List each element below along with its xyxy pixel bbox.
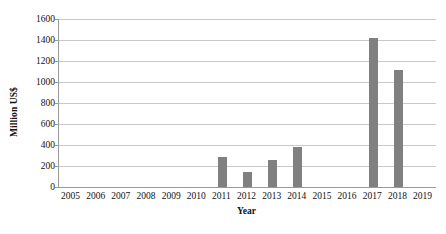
x-axis-tick-label: 2006 — [83, 190, 108, 204]
bar[interactable] — [293, 147, 302, 187]
x-axis-tick-labels: 2005200620072008200920102011201220132014… — [58, 190, 435, 204]
y-axis-tick-label: 200 — [22, 161, 55, 171]
y-axis-title: Million US$ — [6, 58, 22, 166]
bar-slot — [185, 19, 210, 187]
x-axis-tick-label: 2013 — [259, 190, 284, 204]
x-axis-tick-label: 2017 — [360, 190, 385, 204]
x-axis-tick-label: 2019 — [410, 190, 435, 204]
bar-slot — [411, 19, 436, 187]
y-axis-tick-label: 1200 — [22, 56, 55, 66]
bar-slot — [84, 19, 109, 187]
x-axis-title: Year — [58, 206, 435, 216]
bar-slot — [310, 19, 335, 187]
x-axis-tick-label: 2016 — [335, 190, 360, 204]
x-axis-tick-label: 2012 — [234, 190, 259, 204]
x-axis-tick-label: 2009 — [159, 190, 184, 204]
bar-series — [59, 19, 436, 187]
x-axis-tick-label: 2018 — [385, 190, 410, 204]
plot-area — [58, 19, 436, 188]
bar-slot — [210, 19, 235, 187]
y-axis-tick-label: 1400 — [22, 35, 55, 45]
bar[interactable] — [268, 160, 277, 187]
bar[interactable] — [218, 157, 227, 187]
y-axis-title-label: Million US$ — [9, 87, 19, 137]
x-axis-tick-label: 2014 — [284, 190, 309, 204]
y-axis-tick-mark — [55, 187, 59, 188]
bar[interactable] — [243, 172, 252, 187]
gridline — [59, 187, 436, 188]
bar-slot — [235, 19, 260, 187]
y-axis-tick-label: 1600 — [22, 14, 55, 24]
bar-slot — [109, 19, 134, 187]
y-axis-tick-labels: 16001400120010008006004002000 — [22, 19, 55, 187]
y-axis-tick-label: 400 — [22, 140, 55, 150]
y-axis-tick-label: 600 — [22, 119, 55, 129]
bar-slot — [361, 19, 386, 187]
x-axis-tick-label: 2008 — [133, 190, 158, 204]
bar-slot — [59, 19, 84, 187]
bar-slot — [336, 19, 361, 187]
bar-slot — [160, 19, 185, 187]
y-axis-tick-label: 0 — [22, 182, 55, 192]
bar[interactable] — [369, 38, 378, 187]
bar-slot — [134, 19, 159, 187]
bar-slot — [285, 19, 310, 187]
bar-slot — [260, 19, 285, 187]
x-axis-tick-label: 2015 — [309, 190, 334, 204]
x-axis-tick-label: 2010 — [184, 190, 209, 204]
x-axis-tick-label: 2011 — [209, 190, 234, 204]
bar-chart: Million US$ 1600140012001000800600400200… — [0, 0, 446, 234]
x-axis-tick-label: 2007 — [108, 190, 133, 204]
x-axis-tick-label: 2005 — [58, 190, 83, 204]
y-axis-tick-label: 800 — [22, 98, 55, 108]
y-axis-tick-label: 1000 — [22, 77, 55, 87]
bar-slot — [386, 19, 411, 187]
bar[interactable] — [394, 70, 403, 187]
